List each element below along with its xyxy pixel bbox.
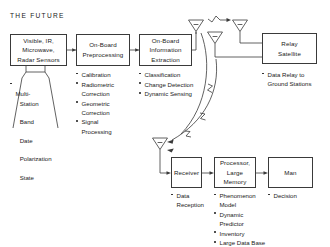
beam-zigzag-b [200, 113, 206, 120]
bullets-receiver: Data Reception [171, 191, 216, 210]
list-item: Signal Processing [76, 117, 134, 136]
bullets-processor: Phenomenon Model Dynamic Predictor Inven… [214, 191, 270, 247]
node-receiver[interactable]: Receiver [171, 157, 202, 188]
list-item: Decision [268, 191, 318, 200]
node-receiver-label: Receiver [172, 168, 201, 178]
list-item: Data Relay to Ground Stations [262, 70, 328, 89]
bullets-relay: Data Relay to Ground Stations [262, 70, 328, 89]
list-item: Data Reception [171, 191, 216, 210]
list-item: Calibration [76, 70, 134, 79]
bullets-preprocessing: Calibration Radiometric Correction Geome… [76, 70, 134, 136]
node-extraction-label: On-Board Information Extraction [147, 36, 183, 65]
node-preprocessing[interactable]: On-Board Preprocessing [76, 34, 130, 66]
bullets-extraction: Classification Change Detection Dynamic … [139, 70, 209, 99]
list-item: Dynamic Predictor [214, 210, 270, 229]
node-processor-label: Processor, Large Memory [218, 158, 252, 187]
page-title: THE FUTURE [10, 12, 65, 19]
diagram-canvas: THE FUTURE [0, 0, 330, 247]
node-relay-satellite[interactable]: Relay Satellite [262, 33, 317, 64]
node-man-label: Man [282, 168, 298, 178]
node-sensors-label: Visible, IR, Microwave, Radar Sensors [15, 36, 62, 65]
node-man[interactable]: Man [268, 157, 313, 188]
bullets-man: Decision [268, 191, 318, 201]
antenna-icon-downlink [208, 32, 223, 44]
list-item: Inventory [214, 229, 270, 238]
beam-zigzag-c [185, 131, 191, 137]
node-preprocessing-label: On-Board Preprocessing [81, 40, 126, 59]
list-item: Change Detection [139, 80, 209, 89]
antenna-icon-ground [153, 138, 168, 150]
node-sensors[interactable]: Visible, IR, Microwave, Radar Sensors [10, 34, 67, 66]
list-item: Dynamic Sensing [139, 89, 209, 98]
node-processor[interactable]: Processor, Large Memory [214, 157, 256, 188]
node-relay-satellite-label: Relay Satellite [276, 39, 303, 58]
arrowhead [167, 149, 174, 153]
list-item: Large Data Base [214, 238, 270, 247]
antenna-icon-uplink [189, 20, 204, 32]
list-item: Multi- Station Band Date Polarization St… [10, 80, 70, 191]
node-extraction[interactable]: On-Board Information Extraction [139, 34, 192, 66]
arrowhead [167, 139, 174, 143]
list-item: Phenomenon Model [214, 191, 270, 210]
antenna-icon-relay [233, 20, 248, 32]
list-item: Geometric Correction [76, 99, 134, 118]
bullets-sensors: Multi- Station Band Date Polarization St… [10, 80, 70, 191]
rf-signal-arrow-icon [208, 16, 228, 22]
list-item: Classification [139, 70, 209, 79]
list-item: Radiometric Correction [76, 80, 134, 99]
